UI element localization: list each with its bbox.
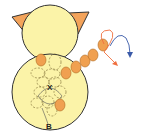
bottom-mark-label: B: [46, 122, 52, 131]
segment-inner-bottom: [55, 99, 65, 111]
segment-inner-top: [36, 54, 46, 66]
orange-arrowhead-icon: [112, 61, 118, 66]
diagram-canvas: X B: [0, 0, 144, 138]
head: [22, 5, 78, 61]
blue-arrow-icon: [110, 35, 130, 54]
center-mark-label: X: [47, 83, 53, 92]
blue-arrowhead-icon: [127, 52, 133, 58]
